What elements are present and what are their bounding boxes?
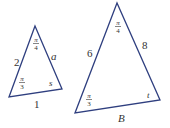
large-angle-top-denominator: 4	[116, 27, 120, 35]
small-angle-right-label: s	[49, 78, 53, 88]
small-side-left-label: 2	[14, 56, 20, 68]
small-side-right-label: a	[51, 50, 57, 62]
large-angle-right-label: t	[147, 90, 150, 100]
large-triangle: 6 8 B π 4 π 3 t	[75, 3, 160, 124]
large-angle-left-numerator: π	[87, 92, 91, 100]
small-side-bottom-label: 1	[34, 98, 40, 110]
small-angle-top-denominator: 4	[34, 44, 38, 52]
small-angle-left-numerator: π	[20, 75, 24, 83]
large-side-right-label: 8	[142, 39, 148, 51]
small-angle-top-numerator: π	[34, 36, 38, 44]
large-angle-top-numerator: π	[116, 19, 120, 27]
small-angle-left-denominator: 3	[20, 83, 24, 91]
small-triangle: 2 a 1 π 4 π 3 s	[9, 26, 62, 110]
large-side-bottom-label: B	[118, 112, 125, 124]
large-side-left-label: 6	[87, 47, 93, 59]
large-angle-left-denominator: 3	[87, 100, 91, 108]
triangles-diagram: 2 a 1 π 4 π 3 s 6 8 B π 4 π 3 t	[0, 0, 170, 128]
